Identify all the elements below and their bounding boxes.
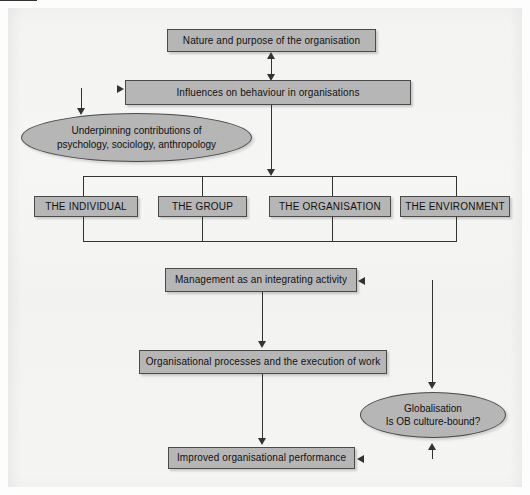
connector-underpinning-arrow-right (117, 85, 124, 93)
node-globalisation-line1: Globalisation (386, 402, 481, 416)
node-the-organisation-label: THE ORGANISATION (279, 201, 381, 213)
connector-performance-feedback-arrow (357, 455, 364, 463)
node-influences-on-behaviour-label: Influences on behaviour in organisations (176, 87, 359, 99)
node-management-integrating-activity-label: Management as an integrating activity (175, 274, 347, 286)
node-organisational-processes[interactable]: Organisational processes and the executi… (139, 350, 387, 374)
node-the-group-label: THE GROUP (172, 201, 233, 213)
node-underpinning-contributions[interactable]: Underpinning contributions of psychology… (21, 113, 252, 162)
connector-globalisation-bottom-arrow (428, 443, 436, 450)
node-the-environment-label: THE ENVIRONMENT (405, 201, 505, 213)
connector-processes-to-performance-line (262, 374, 263, 440)
node-improved-performance[interactable]: Improved organisational performance (168, 447, 355, 469)
node-globalisation-line2: Is OB culture-bound? (386, 415, 481, 429)
node-influences-on-behaviour[interactable]: Influences on behaviour in organisations (125, 80, 411, 105)
connector-nature-influences-arrow-up (267, 52, 275, 59)
node-the-individual-label: THE INDIVIDUAL (45, 201, 127, 213)
node-management-integrating-activity[interactable]: Management as an integrating activity (165, 268, 357, 292)
connector-globalisation-top-arrow (428, 382, 436, 389)
node-globalisation[interactable]: Globalisation Is OB culture-bound? (360, 392, 506, 438)
node-organisational-processes-label: Organisational processes and the executi… (146, 356, 381, 368)
connector-feedback-right-vertical (432, 280, 433, 384)
connector-influences-to-categories-line (271, 105, 272, 171)
node-the-environment[interactable]: THE ENVIRONMENT (400, 196, 510, 217)
diagram-canvas: Nature and purpose of the organisation I… (0, 0, 530, 495)
node-underpinning-contributions-line2: psychology, sociology, anthropology (57, 138, 216, 152)
node-nature-and-purpose-label: Nature and purpose of the organisation (183, 35, 360, 47)
connector-performance-feedback-horizontal (0, 2, 63, 3)
node-improved-performance-label: Improved organisational performance (177, 452, 346, 464)
node-the-organisation[interactable]: THE ORGANISATION (269, 196, 391, 217)
node-underpinning-contributions-line1: Underpinning contributions of (57, 124, 216, 138)
node-nature-and-purpose[interactable]: Nature and purpose of the organisation (167, 29, 376, 52)
connector-underpinning-arrow-down (77, 108, 85, 115)
connector-feedback-to-management-arrow (358, 277, 365, 285)
connector-influences-to-categories-arrow (267, 169, 275, 176)
connector-globalisation-bottom-vertical (432, 450, 433, 459)
connector-management-to-processes-arrow (258, 341, 266, 348)
node-globalisation-text: Globalisation Is OB culture-bound? (386, 402, 481, 429)
connector-underpinning-elbow-vertical (81, 88, 82, 110)
connector-processes-to-performance-arrow (258, 438, 266, 445)
connector-management-to-processes-line (262, 292, 263, 343)
node-the-group[interactable]: THE GROUP (158, 196, 247, 217)
node-underpinning-contributions-text: Underpinning contributions of psychology… (57, 124, 216, 151)
node-the-individual[interactable]: THE INDIVIDUAL (34, 196, 138, 217)
